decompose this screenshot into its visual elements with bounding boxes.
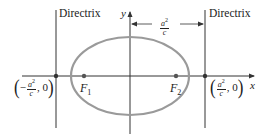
left-point-minus: − — [20, 82, 26, 93]
left-point-close-paren: ) — [48, 78, 54, 98]
left-point-y: , 0 — [37, 82, 48, 93]
directrix-right-intersection — [203, 74, 207, 78]
left-point-open-paren: ( — [14, 78, 20, 98]
right-point-y: , 0 — [227, 82, 238, 93]
x-axis-label: x — [250, 80, 255, 91]
left-point-denominator: c — [30, 90, 34, 98]
distance-exponent: 2 — [165, 17, 168, 23]
right-point-close-paren: ) — [238, 78, 244, 98]
right-point-denominator: c — [219, 90, 223, 98]
directrix-left-intersection — [54, 74, 58, 78]
right-point-open-paren: ( — [210, 78, 216, 98]
y-axis-label: y — [121, 8, 126, 19]
focus2-label: F2 — [170, 82, 181, 97]
distance-denominator: c — [163, 29, 167, 37]
focus2-subscript: 2 — [177, 88, 181, 97]
left-point-label: ( − a2 c , 0 ) — [14, 78, 54, 98]
distance-label: a2 c — [159, 13, 170, 37]
focus1-label: F1 — [80, 82, 91, 97]
ellipse-diagram — [0, 0, 266, 134]
focus1-subscript: 1 — [87, 88, 91, 97]
focus1-point — [82, 74, 86, 78]
focus2-point — [174, 74, 178, 78]
directrix-right-label: Directrix — [209, 8, 251, 20]
left-point-exponent: 2 — [32, 78, 35, 84]
right-point-exponent: 2 — [222, 78, 225, 84]
directrix-left-label: Directrix — [59, 8, 101, 20]
right-point-label: ( a2 c , 0 ) — [210, 78, 243, 98]
